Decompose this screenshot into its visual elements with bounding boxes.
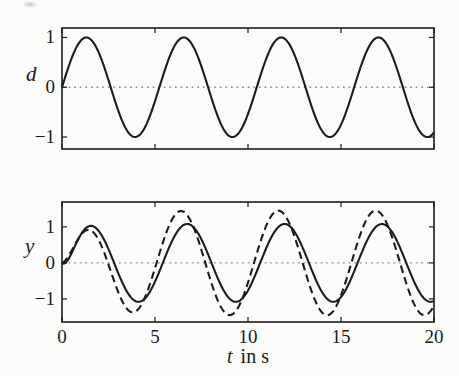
y-tick-label: 0 xyxy=(46,252,56,273)
top-y-axis-label: d xyxy=(26,64,37,85)
two-panel-sine-figure: −101−10105101520 d y tin s xyxy=(0,0,459,376)
x-tick-label: 5 xyxy=(150,326,160,347)
x-axis-variable: t xyxy=(227,345,233,367)
x-tick-label: 20 xyxy=(425,326,444,347)
plots-canvas: −101−10105101520 xyxy=(0,0,459,376)
x-tick-label: 10 xyxy=(239,326,258,347)
y-tick-label: 1 xyxy=(46,216,56,237)
x-axis-label: tin s xyxy=(178,345,318,367)
axes-frame xyxy=(62,28,434,149)
y-tick-label: −1 xyxy=(35,288,55,309)
axes-frame xyxy=(62,202,434,322)
y-tick-label: 0 xyxy=(46,76,56,97)
x-axis-unit: in s xyxy=(241,345,269,367)
x-tick-label: 0 xyxy=(57,326,67,347)
bottom-y-axis-label: y xyxy=(25,236,34,257)
y-tick-label: 1 xyxy=(46,26,56,47)
x-tick-label: 15 xyxy=(332,326,351,347)
y-tick-label: −1 xyxy=(35,126,55,147)
